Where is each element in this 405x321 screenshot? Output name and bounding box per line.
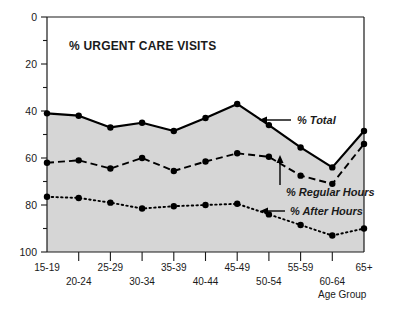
y-tick-labels: 100806040200 bbox=[19, 11, 37, 258]
data-point-marker bbox=[171, 168, 177, 174]
data-point-marker bbox=[266, 154, 272, 160]
x-tick-label: 40-44 bbox=[193, 276, 219, 287]
data-point-marker bbox=[107, 199, 113, 205]
x-tick-label: 50-54 bbox=[256, 276, 282, 287]
data-point-marker bbox=[202, 115, 208, 121]
data-point-marker bbox=[297, 144, 303, 150]
data-point-marker bbox=[329, 164, 335, 170]
data-point-marker bbox=[297, 222, 303, 228]
x-tick-label: 45-49 bbox=[224, 262, 250, 273]
x-tick-label: 60-64 bbox=[320, 276, 346, 287]
data-point-marker bbox=[361, 225, 367, 231]
data-point-marker bbox=[76, 195, 82, 201]
x-tick-labels: 15-1920-2425-2930-3435-3940-4445-4950-54… bbox=[34, 262, 372, 287]
data-point-marker bbox=[107, 165, 113, 171]
x-tick-label: 55-59 bbox=[288, 262, 314, 273]
y-tick-label: 20 bbox=[25, 58, 37, 70]
urgent-care-visits-chart: 100806040200 15-1920-2425-2930-3435-3940… bbox=[0, 0, 405, 321]
data-point-marker bbox=[361, 141, 367, 147]
x-tick-label: 20-24 bbox=[66, 276, 92, 287]
y-tick-label: 80 bbox=[25, 199, 37, 211]
data-point-marker bbox=[202, 158, 208, 164]
x-axis-title: Age Group bbox=[318, 289, 367, 300]
data-point-marker bbox=[44, 194, 50, 200]
data-point-marker bbox=[76, 113, 82, 119]
data-point-marker bbox=[234, 201, 240, 207]
data-point-marker bbox=[139, 120, 145, 126]
y-tick-label: 100 bbox=[19, 246, 37, 258]
chart-title: % URGENT CARE VISITS bbox=[69, 39, 216, 53]
y-tick-label: 40 bbox=[25, 105, 37, 117]
annotation-regular-label: % Regular Hours bbox=[286, 186, 375, 198]
x-tick-label: 15-19 bbox=[34, 262, 60, 273]
x-tick-marks bbox=[79, 252, 333, 261]
y-tick-label: 0 bbox=[31, 11, 37, 23]
data-point-marker bbox=[329, 232, 335, 238]
data-point-marker bbox=[171, 128, 177, 134]
data-point-marker bbox=[171, 203, 177, 209]
y-tick-marks bbox=[41, 17, 47, 252]
chart-canvas: 100806040200 15-1920-2425-2930-3435-3940… bbox=[0, 0, 405, 321]
data-point-marker bbox=[361, 128, 367, 134]
data-point-marker bbox=[297, 172, 303, 178]
data-point-marker bbox=[107, 124, 113, 130]
x-tick-label: 65+ bbox=[356, 262, 373, 273]
data-point-marker bbox=[76, 157, 82, 163]
y-tick-label: 60 bbox=[25, 152, 37, 164]
annotation-total-label: % Total bbox=[297, 114, 337, 126]
x-tick-label: 25-29 bbox=[98, 262, 124, 273]
data-point-marker bbox=[139, 155, 145, 161]
x-tick-label: 35-39 bbox=[161, 262, 187, 273]
data-point-marker bbox=[44, 160, 50, 166]
data-point-marker bbox=[234, 150, 240, 156]
data-point-marker bbox=[202, 202, 208, 208]
data-point-marker bbox=[44, 110, 50, 116]
data-point-marker bbox=[139, 205, 145, 211]
x-tick-label: 30-34 bbox=[129, 276, 155, 287]
data-point-marker bbox=[234, 101, 240, 107]
annotation-after-label: % After Hours bbox=[290, 205, 363, 217]
